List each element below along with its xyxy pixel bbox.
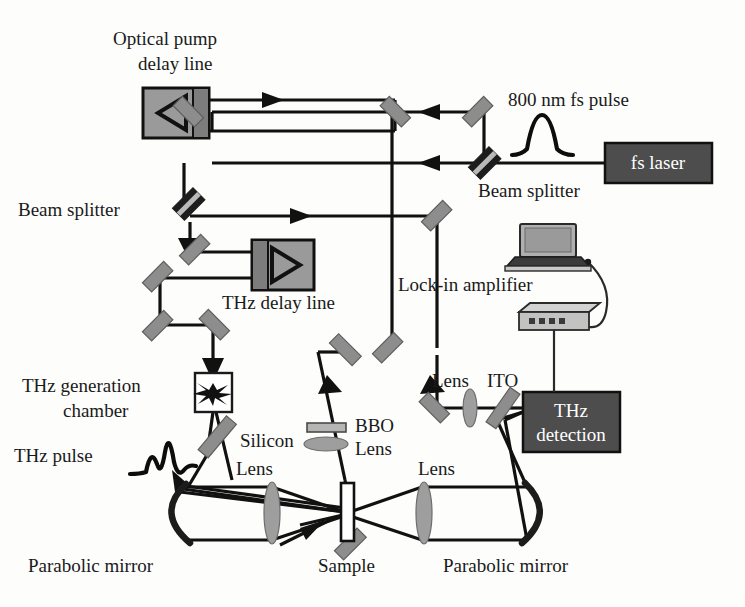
bbo-lens-body bbox=[304, 437, 348, 451]
beam-splitter-right-label: Beam splitter bbox=[478, 180, 581, 201]
thz-delay-line[interactable] bbox=[252, 240, 314, 290]
pulse-800nm-waveform bbox=[512, 115, 573, 155]
lock-in-amplifier-label: Lock-in amplifier bbox=[398, 274, 533, 295]
thz-detection-label-line2: detection bbox=[536, 424, 606, 445]
sample-body bbox=[341, 483, 354, 541]
beam-splitter-left-label: Beam splitter bbox=[18, 199, 121, 220]
parabolic-mirror-right-label: Parabolic mirror bbox=[443, 555, 569, 576]
beam-thz-diverge bbox=[188, 455, 207, 487]
laptop-base bbox=[505, 266, 591, 271]
optical-pump-label-line1: Optical pump bbox=[113, 28, 217, 49]
lock-in-top bbox=[519, 303, 600, 312]
lens-left[interactable] bbox=[264, 482, 280, 544]
arrow-mid-row-left bbox=[418, 155, 440, 171]
lens-probe[interactable] bbox=[463, 389, 477, 427]
mirror-pump-fold-3 bbox=[372, 332, 402, 362]
bbo-crystal[interactable] bbox=[307, 423, 346, 432]
arrow-top-row-left bbox=[418, 104, 440, 120]
arrow-pump-diagonal bbox=[318, 375, 342, 394]
lock-in-amplifier[interactable] bbox=[519, 303, 600, 330]
arrow-pump-out bbox=[262, 92, 284, 108]
bbo-lens[interactable] bbox=[304, 437, 348, 451]
thz-detection[interactable]: THz detection bbox=[523, 392, 620, 452]
figure-root: Optical pump delay line THz delay line f… bbox=[0, 0, 745, 607]
fs-laser-label: fs laser bbox=[631, 152, 686, 173]
lens-left-body bbox=[264, 482, 280, 544]
laptop[interactable] bbox=[505, 224, 591, 271]
thz-pulse-waveform bbox=[130, 443, 196, 474]
bbo-lens-label: Lens bbox=[355, 438, 392, 459]
lens-right-body bbox=[416, 482, 432, 544]
cable-laptop-to-lockin bbox=[588, 262, 607, 327]
thz-pulse-label: THz pulse bbox=[14, 445, 93, 466]
sample-label: Sample bbox=[318, 555, 375, 576]
fs-laser[interactable]: fs laser bbox=[605, 143, 712, 183]
beam-splitter-right[interactable] bbox=[468, 147, 501, 180]
lens-right[interactable] bbox=[416, 482, 432, 544]
parabolic-mirror-left-label: Parabolic mirror bbox=[28, 555, 154, 576]
lens-center-label: Lens bbox=[418, 458, 455, 479]
optical-setup-diagram: Optical pump delay line THz delay line f… bbox=[0, 0, 745, 607]
thz-chamber-label-line1: THz generation bbox=[22, 375, 141, 396]
thz-chamber-label-line2: chamber bbox=[63, 400, 129, 421]
lens-probe-body bbox=[463, 389, 477, 427]
thz-delay-stage-rail bbox=[252, 240, 268, 290]
beam-pump-diagonal bbox=[318, 352, 345, 480]
pulse-800nm-label: 800 nm fs pulse bbox=[508, 89, 629, 110]
thz-delay-line-label: THz delay line bbox=[222, 292, 335, 313]
thz-generation-chamber[interactable] bbox=[193, 373, 232, 412]
lens-left-label: Lens bbox=[236, 458, 273, 479]
ito-label: ITO bbox=[487, 370, 518, 391]
bbo-label: BBO bbox=[355, 415, 394, 436]
thz-detection-label-line1: THz bbox=[554, 400, 588, 421]
lens-right-upper-label: Lens bbox=[432, 370, 469, 391]
sample[interactable] bbox=[341, 483, 354, 541]
mirror-pump-fold-2 bbox=[329, 334, 361, 366]
beam-sample-to-lens-a bbox=[347, 487, 422, 513]
optical-pump-label-line2: delay line bbox=[138, 53, 212, 74]
silicon-label: Silicon bbox=[240, 430, 294, 451]
laptop-keyboard bbox=[507, 257, 589, 266]
laptop-display bbox=[525, 228, 571, 252]
arrow-bs-transmit-right bbox=[290, 208, 312, 224]
bbo-body bbox=[307, 423, 346, 432]
